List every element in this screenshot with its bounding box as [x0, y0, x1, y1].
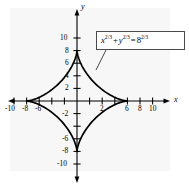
equation-exponent-y: 2/3	[123, 34, 130, 40]
y-ticklabel-neg8: -8	[62, 147, 68, 154]
equation-text: x2/3+y2/3=82/3	[101, 36, 148, 45]
x-axis-label: x	[174, 96, 178, 104]
y-axis-arrow-down	[75, 177, 80, 184]
y-ticklabel-6: 6	[65, 59, 69, 66]
x-ticklabel-2: 2	[100, 105, 104, 112]
y-ticklabel-2: 2	[65, 84, 69, 91]
x-ticklabel-neg8: -8	[22, 105, 28, 112]
y-ticklabel-neg10: -10	[57, 160, 67, 167]
equation-equals-operator: =	[130, 35, 137, 45]
x-ticklabel-8: 8	[138, 105, 142, 112]
x-ticklabel-neg6: -6	[35, 105, 41, 112]
x-ticklabel-6: 6	[125, 105, 129, 112]
y-ticklabel-4: 4	[65, 72, 69, 79]
equation-annotation-box: x2/3+y2/3=82/3	[96, 31, 185, 50]
y-ticklabel-10: 10	[60, 34, 67, 41]
x-ticklabel-10: 10	[149, 105, 156, 112]
equation-exponent-x: 2/3	[105, 34, 112, 40]
x-axis-arrow-right	[164, 99, 171, 104]
plot-canvas	[0, 0, 189, 187]
x-ticklabel-neg10: -10	[5, 105, 15, 112]
astroid-figure: -10 -8 -6 2 6 8 10 10 8 6 4 2 -2 -6 -8 -…	[0, 0, 189, 187]
annotation-leader-line	[96, 50, 106, 70]
y-axis-arrow-up	[75, 9, 80, 16]
y-axis-label: y	[81, 3, 85, 11]
equation-plus-operator: +	[112, 35, 119, 45]
equation-exponent-rhs: 2/3	[141, 34, 148, 40]
y-ticklabel-neg6: -6	[62, 135, 68, 142]
y-ticklabel-8: 8	[65, 47, 69, 54]
y-ticklabel-neg2: -2	[62, 110, 68, 117]
